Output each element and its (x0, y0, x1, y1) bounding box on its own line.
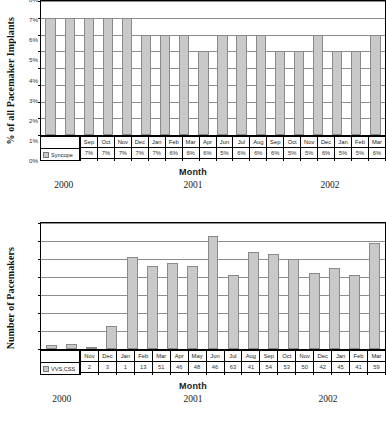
month-label: Sep (260, 351, 277, 362)
bar-column (60, 1, 79, 135)
bar (147, 266, 158, 349)
bar-column (365, 223, 385, 349)
month-label: Oct (284, 137, 300, 148)
bar-column (41, 1, 60, 135)
chart-1-legend-entry: Syncope (41, 149, 79, 160)
month-label: Dec (318, 137, 334, 148)
y-axis-tick-label: 8% (29, 0, 38, 3)
table-column: May48 (189, 351, 207, 375)
chart-1-legend-cell: Syncope (40, 137, 80, 161)
month-label: Feb (352, 137, 368, 148)
table-column: Feb5% (352, 137, 369, 161)
month-label: Nov (296, 351, 313, 362)
month-label: Jan (332, 351, 349, 362)
data-value-cell: 5% (217, 148, 233, 159)
data-value-cell: 7% (98, 148, 114, 159)
chart-2-y-axis-title-text: Number of Pacemakers (5, 247, 16, 349)
table-column: Dec6% (318, 137, 335, 161)
table-column: Sep54 (260, 351, 278, 375)
bar-column (328, 1, 347, 135)
bar (370, 35, 380, 136)
data-value-cell: 46 (207, 362, 224, 373)
table-column: Jan5% (335, 137, 352, 161)
bar (103, 18, 113, 135)
table-column: Nov2 (80, 351, 99, 375)
series-swatch-icon (43, 152, 49, 158)
bar-column (289, 1, 308, 135)
year-group-label: 2000 (52, 394, 71, 404)
year-group-label: 2001 (184, 394, 203, 404)
month-label: Nov (81, 351, 98, 362)
bar (160, 35, 170, 136)
bar (275, 51, 285, 135)
bar-column (284, 223, 304, 349)
table-column: Feb13 (135, 351, 153, 375)
bar (208, 236, 219, 349)
chart-2-legend-spacer (41, 351, 79, 363)
data-value-cell: 42 (314, 362, 331, 373)
bar (236, 35, 246, 136)
month-label: Mar (368, 351, 385, 362)
year-group-label: 2000 (54, 180, 73, 190)
table-column: Jul6% (233, 137, 250, 161)
month-label: Jan (117, 351, 134, 362)
bar-column (223, 223, 243, 349)
data-value-cell: 7% (115, 148, 131, 159)
data-value-cell: 6% (200, 148, 216, 159)
month-label: Jan (335, 137, 351, 148)
table-column: Sep6% (267, 137, 284, 161)
chart-2-table-columns: Nov2Dec3Jan1Feb13Mar51Apr46May48Jun46Jul… (80, 351, 386, 375)
month-label: Apr (171, 351, 188, 362)
bar-column (79, 1, 98, 135)
table-column: Mar59 (368, 351, 386, 375)
y-axis-tick-label: 6% (29, 37, 38, 43)
chart-syncope-percent: % of all Pacemaker Implants 0%1%2%3%4%5%… (0, 0, 386, 222)
chart-2-body: Number of Pacemakers VVS,CSS Nov2Dec3Jan… (0, 222, 386, 375)
table-column: Oct53 (278, 351, 296, 375)
table-column: Jan7% (149, 137, 166, 161)
chart-2-year-groups: 200020012002 (0, 394, 386, 414)
bar-column (137, 1, 156, 135)
axis-tick-mark (38, 135, 41, 136)
table-column: Feb41 (350, 351, 368, 375)
bar-column (309, 1, 328, 135)
data-value-cell: 41 (350, 362, 367, 373)
bar (294, 51, 304, 135)
bar-column (264, 223, 284, 349)
bar-column (347, 1, 366, 135)
chart-1-bars (41, 1, 385, 135)
chart-1-y-axis-ticks: 0%1%2%3%4%5%6%7%8% (20, 0, 40, 161)
data-value-cell: 50 (296, 362, 313, 373)
month-label: Feb (166, 137, 182, 148)
bar-column (366, 1, 385, 135)
chart-2-plot-area: VVS,CSS Nov2Dec3Jan1Feb13Mar51Apr46May48… (40, 222, 386, 375)
data-value-cell: 5% (284, 148, 300, 159)
month-label: Feb (135, 351, 152, 362)
table-column: Nov7% (115, 137, 132, 161)
chart-2-legend-entry: VVS,CSS (41, 363, 79, 374)
bar (127, 257, 138, 349)
month-label: May (189, 351, 206, 362)
chart-1-y-axis-title: % of all Pacemaker Implants (0, 0, 20, 161)
month-label: Nov (115, 137, 131, 148)
table-column: Mar51 (153, 351, 171, 375)
month-label: Dec (99, 351, 116, 362)
month-label: Oct (98, 137, 114, 148)
y-axis-tick-label: 2% (29, 118, 38, 124)
bar-column (194, 1, 213, 135)
month-label: Jul (233, 137, 249, 148)
table-column: Jan1 (117, 351, 135, 375)
bar-column (98, 1, 117, 135)
table-column: Oct5% (284, 137, 301, 161)
table-column: Nov50 (296, 351, 314, 375)
table-column: Mar6% (183, 137, 200, 161)
month-label: Mar (183, 137, 199, 148)
chart-2-bars (41, 223, 385, 349)
chart-1-x-axis-title: Month (0, 167, 386, 177)
month-label: Mar (153, 351, 170, 362)
bar (332, 51, 342, 135)
bar-column (102, 223, 122, 349)
data-value-cell: 5% (352, 148, 368, 159)
year-group-label: 2002 (319, 394, 338, 404)
bar-column (162, 223, 182, 349)
